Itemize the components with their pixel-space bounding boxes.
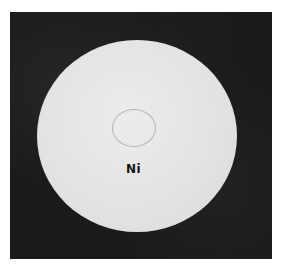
element-label: Ni <box>126 162 141 176</box>
center-ring-mark <box>112 109 156 147</box>
